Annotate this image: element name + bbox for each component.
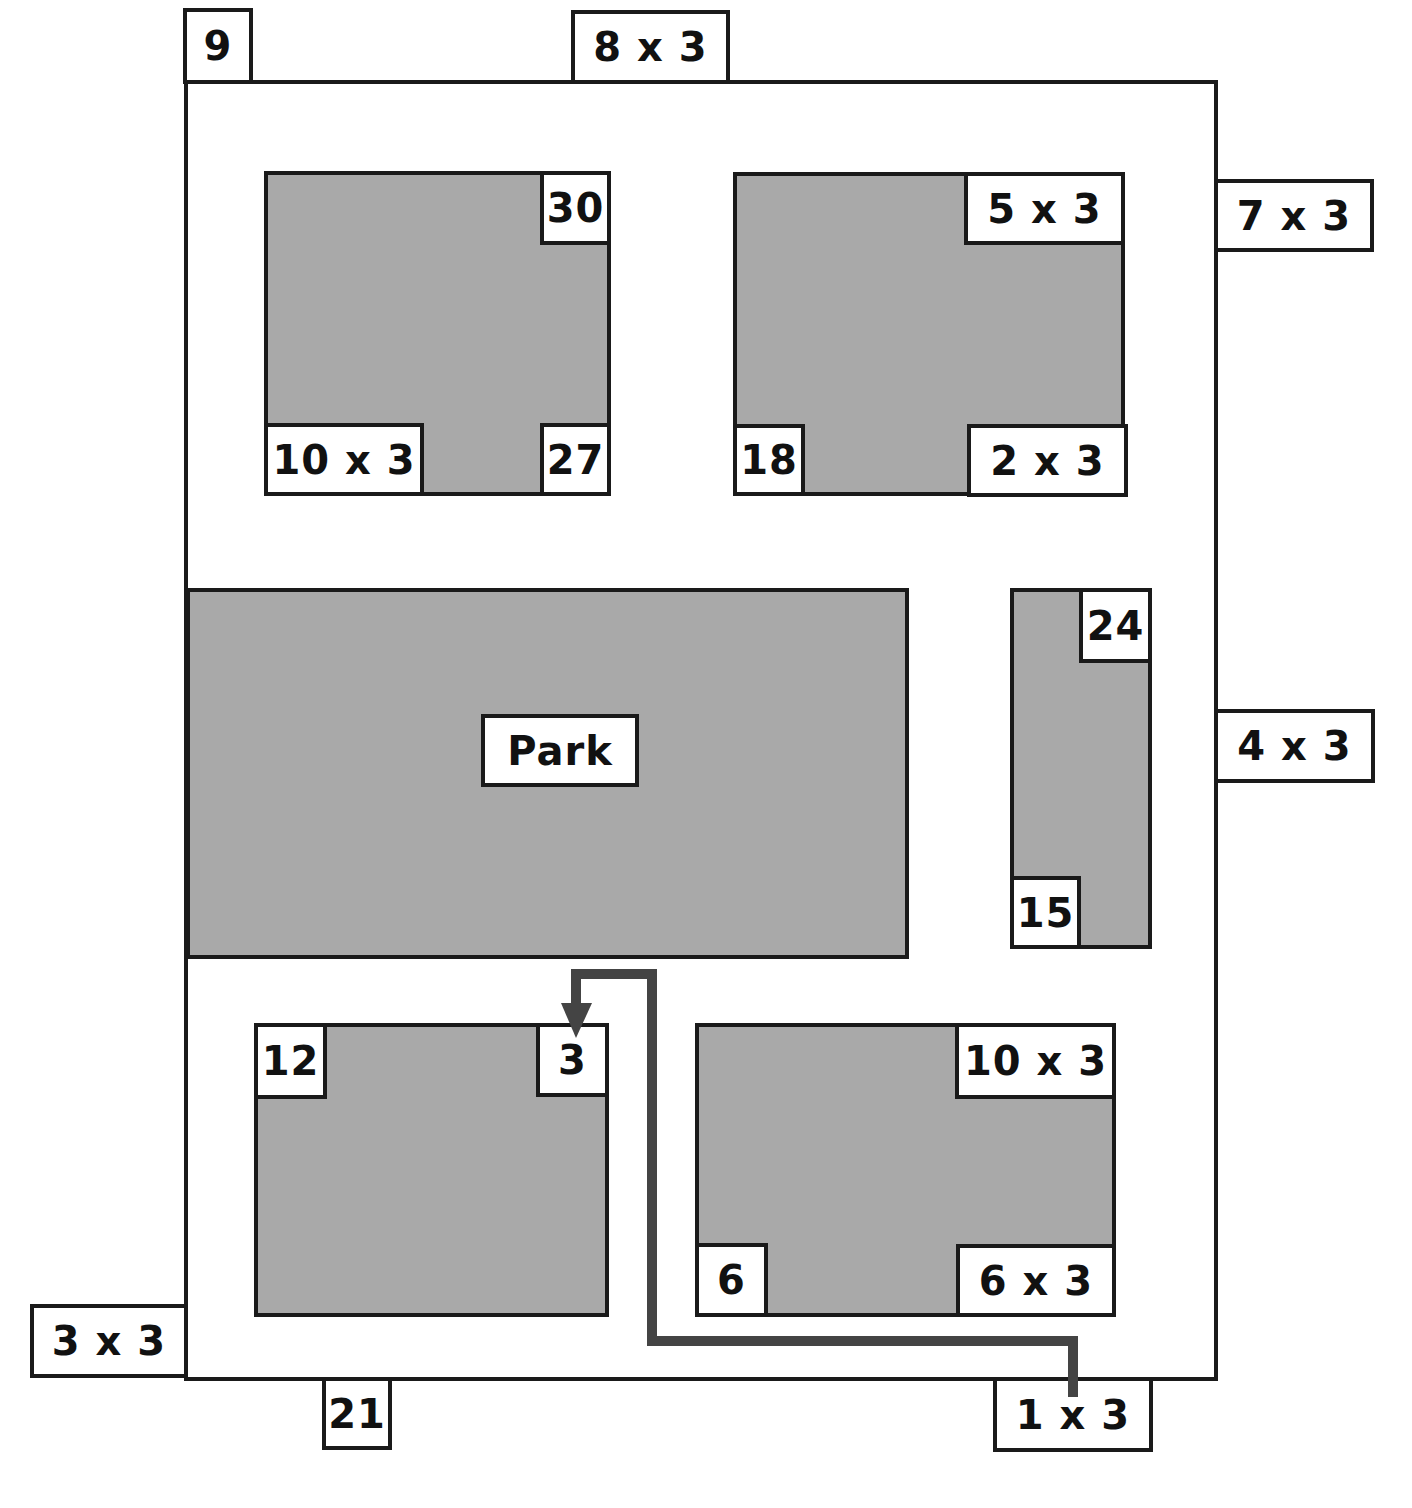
label-6: 6 — [695, 1243, 768, 1317]
label-24: 24 — [1079, 588, 1152, 663]
label-10x3-top: 10 x 3 — [264, 423, 424, 496]
label-1x3: 1 x 3 — [993, 1377, 1153, 1452]
label-18: 18 — [733, 424, 805, 496]
label-30: 30 — [540, 171, 611, 245]
label-15: 15 — [1010, 876, 1081, 949]
label-3-destination: 3 — [536, 1023, 609, 1097]
label-6x3: 6 x 3 — [956, 1244, 1116, 1317]
label-2x3: 2 x 3 — [967, 424, 1128, 497]
label-12: 12 — [254, 1023, 327, 1099]
label-21: 21 — [322, 1377, 392, 1450]
label-7x3: 7 x 3 — [1214, 179, 1374, 252]
label-9: 9 — [183, 8, 253, 84]
park-label: Park — [481, 714, 639, 787]
label-8x3: 8 x 3 — [571, 10, 730, 84]
label-10x3-bottom: 10 x 3 — [955, 1023, 1116, 1099]
label-5x3: 5 x 3 — [964, 172, 1125, 245]
label-27: 27 — [540, 423, 611, 496]
label-3x3: 3 x 3 — [30, 1304, 188, 1378]
label-4x3: 4 x 3 — [1214, 709, 1375, 783]
